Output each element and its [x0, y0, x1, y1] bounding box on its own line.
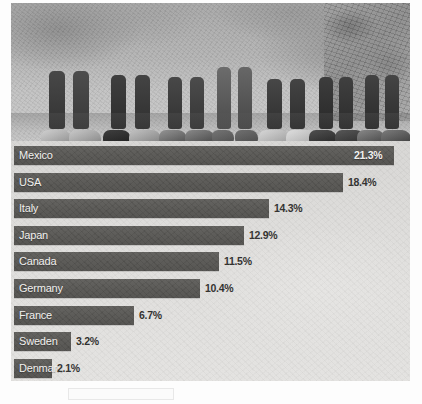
bar-value-label: 10.4% — [205, 279, 233, 298]
header-photograph — [11, 3, 410, 147]
bar-value-label: 2.1% — [57, 359, 80, 378]
bar-category-label: Sweden — [19, 332, 58, 351]
table-row: Italy14.3% — [14, 199, 407, 218]
table-row: Germany10.4% — [14, 279, 407, 298]
bar-value-label: 21.3% — [354, 146, 382, 165]
table-row: Mexico21.3% — [14, 146, 407, 165]
footer-rule — [68, 388, 174, 400]
bar-value-label: 6.7% — [139, 306, 162, 325]
bar-value-label: 14.3% — [274, 199, 302, 218]
bar-mexico — [14, 146, 394, 165]
bar-value-label: 3.2% — [76, 332, 99, 351]
bar-italy — [14, 199, 269, 218]
bar-category-label: Japan — [19, 226, 48, 245]
table-row: USA18.4% — [14, 173, 407, 192]
bar-category-label: USA — [19, 173, 41, 192]
bar-value-label: 11.5% — [224, 252, 252, 271]
bar-category-label: Italy — [19, 199, 38, 218]
table-row: Denmark2.1% — [14, 359, 407, 378]
bar-japan — [14, 226, 244, 245]
table-row: Japan12.9% — [14, 226, 407, 245]
bar-category-label: Mexico — [19, 146, 53, 165]
bar-value-label: 12.9% — [249, 226, 277, 245]
bar-value-label: 18.4% — [348, 173, 376, 192]
bar-category-label: Denmark — [19, 359, 62, 378]
table-row: France6.7% — [14, 306, 407, 325]
bar-chart: Mexico21.3%USA18.4%Italy14.3%Japan12.9%C… — [11, 141, 410, 381]
bar-category-label: France — [19, 306, 52, 325]
table-row: Canada11.5% — [14, 252, 407, 271]
bar-category-label: Germany — [19, 279, 63, 298]
bar-category-label: Canada — [19, 252, 56, 271]
table-row: Sweden3.2% — [14, 332, 407, 351]
bar-usa — [14, 173, 343, 192]
page-root: Mexico21.3%USA18.4%Italy14.3%Japan12.9%C… — [0, 0, 422, 404]
